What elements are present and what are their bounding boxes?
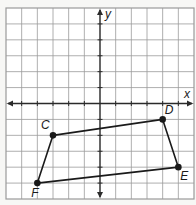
graph-canvas: xyCDEF — [0, 0, 196, 205]
vertex-label-d: D — [165, 103, 174, 117]
vertex-point-c — [50, 132, 57, 139]
vertex-label-f: F — [31, 186, 39, 200]
coordinate-plane: xyCDEF — [0, 0, 196, 205]
x-axis-label: x — [183, 87, 191, 101]
vertex-label-e: E — [180, 169, 189, 183]
y-axis-label: y — [104, 7, 112, 21]
vertex-label-c: C — [41, 118, 50, 132]
